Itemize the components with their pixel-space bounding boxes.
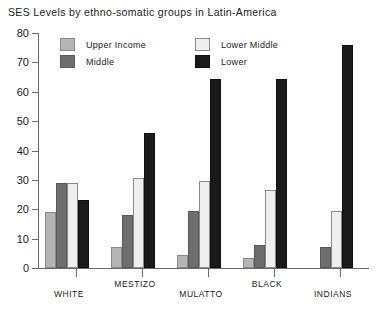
bar-white-lower[interactable] (78, 200, 89, 268)
bar-indians-middle[interactable] (320, 247, 331, 268)
bar-white-upper-income[interactable] (45, 212, 56, 268)
x-label-mestizo: MESTIZO (114, 279, 155, 289)
bar-mulatto-lower[interactable] (210, 79, 221, 268)
bar-mulatto-middle[interactable] (188, 211, 199, 268)
legend-label: Lower (221, 57, 247, 67)
y-tick-mark (32, 92, 38, 93)
bar-black-middle[interactable] (254, 245, 265, 269)
bar-mestizo-upper-income[interactable] (111, 247, 122, 268)
legend-item-lower[interactable]: Lower (195, 55, 247, 68)
legend-label: Middle (86, 57, 114, 67)
legend-item-lower-middle[interactable]: Lower Middle (195, 38, 278, 51)
legend-swatch-lower-middle (195, 38, 210, 51)
y-tick-label: 10 (17, 233, 29, 245)
y-tick-label: 0 (23, 262, 29, 274)
y-tick-label: 20 (17, 203, 29, 215)
legend-label: Upper Income (86, 40, 146, 50)
x-label-mulatto: MULATTO (179, 289, 222, 299)
legend-swatch-middle (60, 55, 75, 68)
bar-black-upper-income[interactable] (243, 258, 254, 268)
bar-indians-lower[interactable] (342, 45, 353, 268)
y-tick-label: 30 (17, 174, 29, 186)
legend-swatch-lower (195, 55, 210, 68)
x-tick-mark (208, 268, 209, 277)
legend-item-middle[interactable]: Middle (60, 55, 114, 68)
bar-mestizo-lower[interactable] (144, 133, 155, 268)
y-tick-label: 80 (17, 27, 29, 39)
y-tick-label: 50 (17, 115, 29, 127)
y-tick-mark (32, 121, 38, 122)
y-tick-mark (32, 151, 38, 152)
bar-black-lower[interactable] (276, 79, 287, 268)
x-label-indians: INDIANS (314, 289, 352, 299)
bar-mulatto-upper-income[interactable] (177, 255, 188, 268)
y-tick-mark (32, 62, 38, 63)
x-axis-line (38, 268, 369, 269)
y-tick-mark (32, 209, 38, 210)
y-tick-label: 40 (17, 145, 29, 157)
y-tick-label: 60 (17, 86, 29, 98)
bar-mulatto-lower-middle[interactable] (199, 181, 210, 268)
legend-item-upper-income[interactable]: Upper Income (60, 38, 146, 51)
chart-legend: Upper IncomeMiddleLower MiddleLower (60, 38, 320, 72)
chart-title: SES Levels by ethno-somatic groups in La… (8, 6, 277, 18)
y-tick-mark (32, 239, 38, 240)
legend-label: Lower Middle (221, 40, 278, 50)
chart-container: SES Levels by ethno-somatic groups in La… (0, 0, 380, 313)
y-tick-mark (32, 33, 38, 34)
x-tick-mark (340, 268, 341, 277)
bar-mestizo-middle[interactable] (122, 215, 133, 268)
x-label-black: BLACK (252, 279, 282, 289)
y-tick-mark (32, 180, 38, 181)
x-tick-mark (274, 268, 275, 277)
bar-white-lower-middle[interactable] (67, 183, 78, 268)
y-tick-label: 70 (17, 56, 29, 68)
bar-white-middle[interactable] (56, 183, 67, 268)
x-tick-mark (76, 268, 77, 277)
bar-indians-lower-middle[interactable] (331, 211, 342, 268)
legend-swatch-upper-income (60, 38, 75, 51)
bar-black-lower-middle[interactable] (265, 190, 276, 268)
x-label-white: WHITE (54, 289, 84, 299)
x-tick-mark (142, 268, 143, 277)
y-tick-mark (32, 268, 38, 269)
bar-mestizo-lower-middle[interactable] (133, 178, 144, 268)
